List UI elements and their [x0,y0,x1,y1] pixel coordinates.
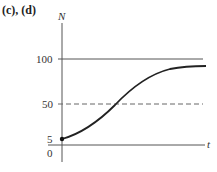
y-axis-label: N [57,10,66,22]
tick-label-5: 5 [47,133,53,145]
logistic-curve [62,66,206,139]
tick-label-0: 0 [47,147,53,159]
chart-canvas: N t 100 50 5 0 [0,0,217,172]
x-axis-label: t [207,138,211,150]
tick-label-100: 100 [36,53,53,65]
initial-point-marker [60,137,64,141]
tick-label-50: 50 [42,98,54,110]
